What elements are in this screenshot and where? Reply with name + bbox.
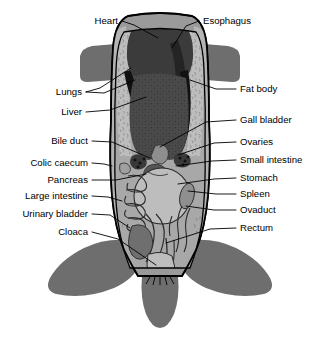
label-esophagus: Esophagus <box>203 15 251 26</box>
left-forelimb <box>80 44 116 82</box>
label-spleen: Spleen <box>240 188 270 199</box>
label-heart: Heart <box>95 15 119 26</box>
label-ovaduct: Ovaduct <box>240 204 276 215</box>
label-urinary-bladder: Urinary bladder <box>22 208 88 219</box>
anatomy-illustration: HeartLungsLiverBile ductColic caecumPanc… <box>0 0 320 337</box>
label-pancreas: Pancreas <box>47 174 88 185</box>
frog-anatomy-diagram: HeartLungsLiverBile ductColic caecumPanc… <box>0 0 320 337</box>
label-large-intestine: Large intestine <box>25 190 88 201</box>
label-lungs: Lungs <box>56 86 82 97</box>
label-small-intestine: Small intestine <box>240 154 302 165</box>
label-gall-bladder: Gall bladder <box>240 114 293 125</box>
label-fat-body: Fat body <box>240 83 278 94</box>
label-bile-duct: Bile duct <box>51 135 88 146</box>
label-rectum: Rectum <box>240 222 273 233</box>
label-stomach: Stomach <box>240 172 278 183</box>
label-colic-caecum: Colic caecum <box>30 157 88 168</box>
label-ovaries: Ovaries <box>240 136 273 147</box>
right-forelimb <box>204 44 240 82</box>
colic-caecum-organ <box>120 163 131 174</box>
label-liver: Liver <box>61 106 83 117</box>
body-cavity <box>110 20 210 276</box>
label-cloaca: Cloaca <box>58 226 89 237</box>
